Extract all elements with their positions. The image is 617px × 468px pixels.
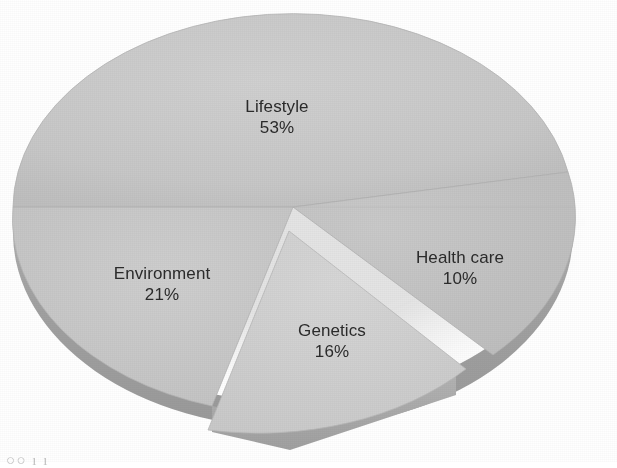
cut-off-caption: ○○ ı ı (6, 452, 49, 468)
slice-lifestyle (13, 14, 568, 207)
